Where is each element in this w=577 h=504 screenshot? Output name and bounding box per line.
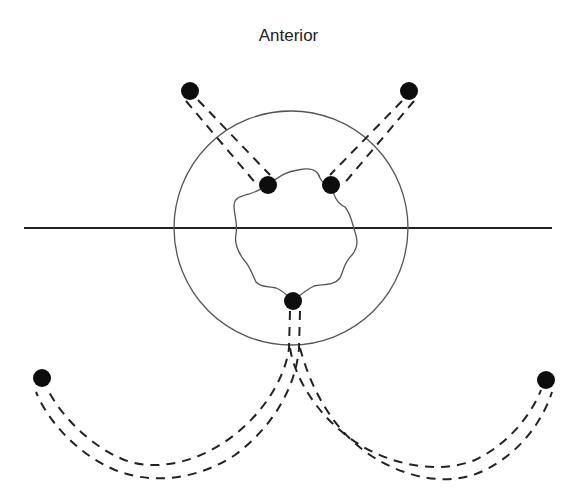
diagram-canvas [0,0,577,504]
tract-bottom-left [36,311,300,478]
tract-bottom-right [290,348,552,479]
dot-inner-bottom [284,292,302,310]
dot-bottom-left-external [33,369,51,387]
dot-top-left-external [181,82,199,100]
dot-inner-left [259,176,277,194]
dot-inner-right [322,176,340,194]
tract-top-left [186,100,270,186]
dot-top-right-external [400,82,418,100]
dot-bottom-right-external [537,371,555,389]
